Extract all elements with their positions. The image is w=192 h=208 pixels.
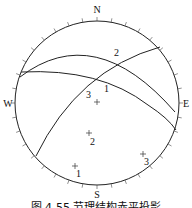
pole-label-2: 2	[90, 136, 95, 147]
west-label: W	[3, 98, 13, 109]
north-label: N	[93, 4, 100, 15]
great-circle-label-1: 1	[104, 83, 109, 94]
center-cross-icon	[94, 99, 100, 105]
pole-label-1: 1	[76, 168, 81, 179]
stereonet-diagram: N S W E 2 1 3 2 1 3	[0, 0, 192, 208]
pole-label-3: 3	[144, 156, 149, 167]
east-label: E	[183, 98, 189, 109]
great-circle-3	[36, 47, 160, 156]
great-circle-2	[20, 55, 175, 112]
great-circle-label-2: 2	[114, 47, 119, 58]
great-circle-label-3: 3	[86, 89, 91, 100]
figure-caption: 图 4-55 节理结构赤平投影	[0, 198, 192, 208]
